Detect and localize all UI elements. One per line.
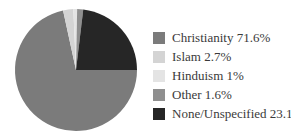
legend-item-none-unspecified: None/Unspecified 23.1% (153, 108, 291, 120)
pie-slice-none-unspecified (76, 9, 137, 70)
legend-item-islam: Islam 2.7% (153, 51, 291, 63)
legend-item-hinduism: Hinduism 1% (153, 70, 291, 82)
legend-swatch-none-unspecified (153, 108, 165, 120)
pie-chart-figure: Christianity 71.6% Islam 2.7% Hinduism 1… (0, 0, 291, 135)
pie-chart (0, 0, 152, 135)
legend-swatch-christianity (153, 32, 165, 44)
legend-item-other: Other 1.6% (153, 89, 291, 101)
legend-swatch-hinduism (153, 70, 165, 82)
legend-item-christianity: Christianity 71.6% (153, 32, 291, 44)
legend-label-other: Other 1.6% (172, 89, 232, 101)
legend-label-hinduism: Hinduism 1% (172, 70, 244, 82)
legend-swatch-islam (153, 51, 165, 63)
legend: Christianity 71.6% Islam 2.7% Hinduism 1… (153, 32, 291, 135)
legend-label-christianity: Christianity 71.6% (172, 32, 270, 44)
legend-label-islam: Islam 2.7% (172, 51, 231, 63)
legend-label-none-unspecified: None/Unspecified 23.1% (172, 108, 291, 120)
legend-swatch-other (153, 89, 165, 101)
